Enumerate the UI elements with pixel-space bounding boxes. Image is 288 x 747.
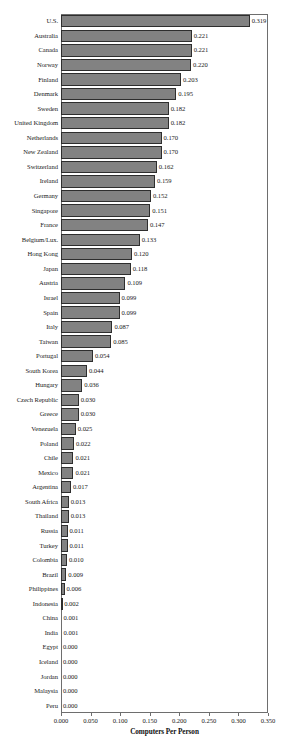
bar-value-label: 0.147 — [150, 221, 165, 229]
bar-row: Mexico0.021 — [0, 465, 288, 480]
category-label: Turkey — [0, 542, 58, 550]
bar-value-label: 0.221 — [194, 47, 209, 55]
bar — [61, 408, 79, 420]
category-label: Germany — [0, 192, 58, 200]
x-axis-tick-mark — [268, 713, 269, 716]
bar-row: France0.147 — [0, 218, 288, 233]
bar-value-label: 0.054 — [95, 352, 110, 360]
category-label: Thailand — [0, 513, 58, 521]
bar-value-label: 0.120 — [134, 250, 149, 258]
category-label: Hungary — [0, 382, 58, 390]
bar — [61, 525, 68, 537]
computers-per-person-bar-chart: U.S.0.319Australia0.221Canada0.221Norway… — [0, 0, 288, 747]
bar-value-label: 0.085 — [113, 338, 128, 346]
bar-row: New Zealand0.170 — [0, 145, 288, 160]
bar-row: Netherlands0.170 — [0, 131, 288, 146]
category-label: Norway — [0, 61, 58, 69]
bar — [61, 219, 148, 231]
category-label: Iceland — [0, 658, 58, 666]
bar-value-label: 0.021 — [75, 454, 90, 462]
bar-value-label: 0.118 — [133, 265, 147, 273]
bar-row: Czech Republic0.030 — [0, 393, 288, 408]
bar-row: Japan0.118 — [0, 262, 288, 277]
bar-row: Venezuela0.025 — [0, 422, 288, 437]
bar-row: Denmark0.195 — [0, 87, 288, 102]
bar-row: India0.001 — [0, 626, 288, 641]
bar-row: U.S.0.319 — [0, 14, 288, 29]
bar-value-label: 0.009 — [68, 571, 83, 579]
bar-rows-container: U.S.0.319Australia0.221Canada0.221Norway… — [0, 14, 288, 713]
x-axis-tick-mark — [61, 713, 62, 716]
category-label: Switzerland — [0, 163, 58, 171]
bar-value-label: 0.000 — [63, 702, 78, 710]
category-label: Egypt — [0, 644, 58, 652]
bar-value-label: 0.030 — [81, 396, 96, 404]
bar — [61, 190, 151, 202]
bar — [61, 132, 162, 144]
bar-value-label: 0.013 — [71, 513, 86, 521]
bar — [61, 539, 68, 551]
bar-row: Malaysia0.000 — [0, 684, 288, 699]
bar-value-label: 0.133 — [142, 236, 157, 244]
bar-row: Jordan0.000 — [0, 669, 288, 684]
bar-row: Poland0.022 — [0, 436, 288, 451]
bar-value-label: 0.017 — [73, 483, 88, 491]
bar-value-label: 0.002 — [64, 600, 79, 608]
bar — [61, 306, 120, 318]
bar-value-label: 0.000 — [63, 644, 78, 652]
bar — [61, 30, 192, 42]
bar-row: Egypt0.000 — [0, 640, 288, 655]
bar — [61, 234, 140, 246]
bar-row: Philippines0.006 — [0, 582, 288, 597]
category-label: Venezuela — [0, 425, 58, 433]
bar-value-label: 0.087 — [114, 323, 129, 331]
bar-value-label: 0.000 — [63, 687, 78, 695]
category-label: United Kingdom — [0, 119, 58, 127]
bar — [61, 568, 66, 580]
bar-value-label: 0.001 — [64, 629, 79, 637]
category-label: Peru — [0, 702, 58, 710]
bar-value-label: 0.021 — [75, 469, 90, 477]
category-label: Indonesia — [0, 600, 58, 608]
bar — [61, 59, 191, 71]
bar-value-label: 0.022 — [76, 440, 91, 448]
bar — [61, 73, 181, 85]
category-label: Taiwan — [0, 338, 58, 346]
bar-value-label: 0.044 — [89, 367, 104, 375]
bar — [61, 44, 192, 56]
category-label: South Africa — [0, 498, 58, 506]
category-label: Malaysia — [0, 687, 58, 695]
bar — [61, 437, 74, 449]
bar — [61, 102, 169, 114]
bar-value-label: 0.000 — [63, 658, 78, 666]
bar-row: Turkey0.011 — [0, 538, 288, 553]
bar — [61, 467, 73, 479]
bar-row: Taiwan0.085 — [0, 334, 288, 349]
bar — [61, 248, 132, 260]
bar-row: Norway0.220 — [0, 58, 288, 73]
category-label: South Korea — [0, 367, 58, 375]
category-label: Mexico — [0, 469, 58, 477]
category-label: Belgium/Lux. — [0, 236, 58, 244]
category-label: Sweden — [0, 105, 58, 113]
bar-value-label: 0.109 — [127, 280, 142, 288]
category-label: Philippines — [0, 585, 58, 593]
category-label: Italy — [0, 323, 58, 331]
bar — [61, 335, 111, 347]
x-axis-tick-mark — [179, 713, 180, 716]
category-label: France — [0, 221, 58, 229]
category-label: U.S. — [0, 17, 58, 25]
bar-row: China0.001 — [0, 611, 288, 626]
x-axis-title: Computers Per Person — [61, 728, 268, 736]
bar — [61, 554, 67, 566]
category-label: Ireland — [0, 178, 58, 186]
bar-row: Portugal0.054 — [0, 349, 288, 364]
bar-row: Belgium/Lux.0.133 — [0, 232, 288, 247]
category-label: Canada — [0, 47, 58, 55]
bar-row: Finland0.203 — [0, 72, 288, 87]
x-axis: Computers Per Person 0.0000.0500.1000.15… — [0, 713, 288, 747]
bar-value-label: 0.159 — [157, 178, 172, 186]
category-label: Singapore — [0, 207, 58, 215]
bar — [61, 510, 69, 522]
bar — [61, 583, 65, 595]
